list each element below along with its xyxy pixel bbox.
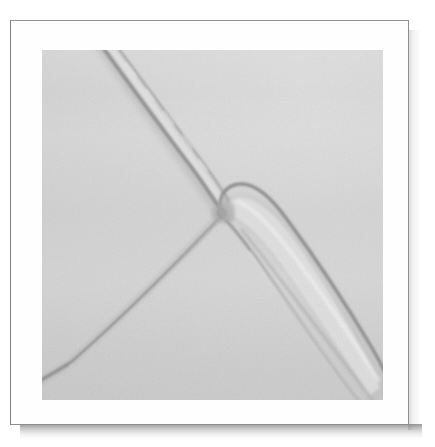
- frame-shadow-bottom: [20, 424, 422, 440]
- plate-vignette: [42, 50, 383, 400]
- figure-page: [0, 0, 435, 447]
- micrograph-plate: [42, 50, 383, 400]
- frame-shadow-right: [408, 30, 421, 430]
